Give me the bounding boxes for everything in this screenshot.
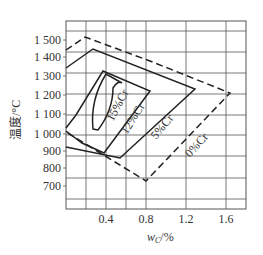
y-tick-1200: 1 200 bbox=[34, 88, 61, 102]
y-tick-800: 800 bbox=[43, 161, 61, 175]
y-tick-1400: 1 400 bbox=[34, 50, 61, 64]
y-tick-700: 700 bbox=[43, 179, 61, 193]
x-tick-labels: 0.4 0.8 1.2 1.6 bbox=[99, 212, 234, 226]
x-tick-0.8: 0.8 bbox=[139, 212, 154, 226]
x-tick-1.2: 1.2 bbox=[179, 212, 194, 226]
y-tick-1500: 1 500 bbox=[34, 33, 61, 47]
y-axis-label: 温度/°C bbox=[8, 100, 23, 140]
y-tick-900: 900 bbox=[43, 144, 61, 158]
series-0cr bbox=[66, 37, 230, 181]
x-tick-1.6: 1.6 bbox=[219, 212, 234, 226]
chart-svg: 1 500 1 400 1 300 1 200 1 100 1 000 900 … bbox=[0, 0, 263, 255]
y-tick-labels: 1 500 1 400 1 300 1 200 1 100 1 000 900 … bbox=[34, 33, 61, 193]
label-5cr: 5%Cr bbox=[148, 111, 177, 141]
y-tick-1100: 1 100 bbox=[34, 107, 61, 121]
y-tick-1000: 1 000 bbox=[34, 127, 61, 141]
annotations: 15%Cr 12%Cr 5%Cr 0%Cr bbox=[103, 87, 211, 160]
y-tick-1300: 1 300 bbox=[34, 69, 61, 83]
x-tick-0.4: 0.4 bbox=[99, 212, 114, 226]
series-5cr bbox=[66, 49, 195, 158]
x-axis-label: wC/% bbox=[147, 230, 174, 245]
